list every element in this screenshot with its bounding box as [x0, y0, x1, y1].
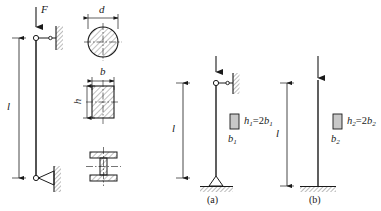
panel-a-section-width-label: b1 [228, 134, 237, 146]
panel-a-section-relation-label: h1=2b1 [244, 116, 273, 128]
length-dimension-l [12, 38, 26, 178]
panel-b-section-width-label: b2 [331, 134, 340, 146]
panel-b-equals-two: =2 [356, 115, 367, 126]
length-label-l-left: l [7, 101, 10, 112]
cross-section-i-beam [86, 147, 121, 186]
panel-a-b-subscript: 1 [233, 138, 237, 146]
panel-b-length-label-l: l [276, 128, 279, 139]
panel-a-equals-two: =2 [253, 115, 264, 126]
panel-b-caption: (b) [309, 195, 321, 205]
panel-b-section-swatch [333, 114, 342, 129]
height-label-h: h [72, 99, 83, 105]
panel-a-length-dimension [176, 83, 190, 178]
panel-b [280, 56, 342, 192]
load-label-F: F [41, 4, 48, 15]
panel-b-b-subscript: 2 [336, 138, 340, 146]
panel-a-b-subscript-2: 1 [269, 120, 273, 128]
cross-section-rectangular [83, 77, 120, 124]
panel-a-top-support-pin-roller [213, 73, 239, 94]
panel-a-bottom-support-pin-ground [200, 176, 233, 192]
cross-section-circular [84, 14, 122, 61]
panel-b-bottom-support-fixed [300, 187, 336, 193]
panel-b-b-subscript-2: 2 [372, 120, 376, 128]
bottom-support-pin [33, 166, 61, 192]
panel-b-section-relation-label: h2=2b2 [347, 116, 376, 128]
width-label-b: b [100, 66, 106, 77]
diameter-label-d: d [99, 4, 105, 15]
top-support-pin-roller [33, 26, 63, 50]
panel-a-length-label-l: l [172, 123, 175, 134]
panel-b-length-dimension [280, 83, 294, 186]
buckling-figure [0, 0, 381, 211]
panel-a-section-swatch [230, 114, 239, 129]
panel-left-column [12, 7, 63, 192]
panel-a [176, 56, 240, 192]
panel-a-caption: (a) [207, 195, 218, 205]
